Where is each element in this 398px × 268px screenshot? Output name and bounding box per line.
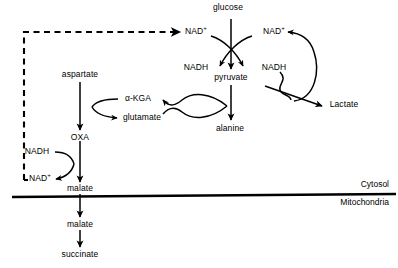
pathway-vector-layer [0, 0, 398, 268]
curve-nadplus-right-to-nadh-left [220, 36, 252, 66]
curve-glutamate-out [92, 107, 117, 118]
node-label-oxa: OXA [71, 133, 89, 142]
compartment-label-cytosol: Cytosol [361, 179, 389, 189]
node-label-malate-cytosol: malate [67, 184, 93, 193]
curve-nadplus-out-of-oxa-step [56, 164, 74, 179]
node-label-succinate: succinate [62, 250, 99, 259]
node-label-nad-plus-malate: NAD+ [29, 174, 51, 183]
curve-akga-into-aspartate-step [92, 99, 118, 107]
membrane-line [12, 194, 396, 197]
curve-lens-upper [163, 95, 227, 106]
node-label-alanine: alanine [216, 124, 244, 133]
pathway-diagram-canvas: glucose NAD+ NAD+ NADH NADH pyruvate Lac… [0, 0, 398, 268]
curve-nadh-s-to-lactate [280, 72, 291, 100]
dashed-feedback-path [24, 32, 180, 180]
node-label-pyruvate: pyruvate [214, 73, 247, 82]
curve-nadh-into-oxa-step [55, 152, 74, 164]
curve-lens-lower [163, 106, 227, 117]
node-label-glucose: glucose [213, 3, 243, 12]
node-label-aspartate: aspartate [62, 70, 98, 79]
node-label-glutamate: glutamate [123, 113, 161, 122]
node-label-alpha-kga: α-KGA [125, 94, 151, 103]
node-label-nadh-right: NADH [262, 63, 287, 72]
node-label-nad-plus-left: NAD+ [185, 27, 207, 36]
node-label-nadh-oxa: NADH [25, 147, 50, 156]
node-label-nadh-left: NADH [184, 63, 209, 72]
node-label-nad-plus-right: NAD+ [263, 27, 285, 36]
arrow-pyruvate-to-lactate [265, 86, 322, 106]
node-label-lactate: Lactate [330, 100, 359, 109]
compartment-label-mitochondria: Mitochondria [340, 197, 389, 207]
curve-lactate-arc-to-nadplus [288, 32, 317, 101]
node-label-malate-mitochondria: malate [67, 220, 93, 229]
curve-nadplus-left-to-nadh-right [211, 36, 243, 66]
